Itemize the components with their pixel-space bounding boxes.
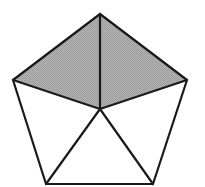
pentagon-diagram	[0, 0, 205, 187]
diagram-canvas	[0, 0, 205, 187]
